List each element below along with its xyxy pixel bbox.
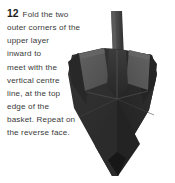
instruction-line-6: vertical centre (7, 74, 87, 87)
instruction-line-9: basket. Repeat on (7, 113, 87, 126)
instruction-line-5: meet with the (7, 61, 87, 74)
instruction-text-block: 12Fold the two outer corners of the uppe… (7, 7, 87, 140)
instruction-line-3: upper layer (7, 34, 87, 47)
instruction-line-2: outer corners of the (7, 21, 87, 34)
instruction-line-1: 12Fold the two (7, 7, 87, 21)
origami-instruction-page: 12Fold the two outer corners of the uppe… (0, 0, 175, 183)
instruction-line-10: the reverse face. (7, 126, 87, 139)
instruction-line-7: line, at the top (7, 87, 87, 100)
instruction-line-8: edge of the (7, 100, 87, 113)
instruction-line-4: inward to (7, 47, 87, 60)
step-number: 12 (7, 8, 19, 19)
instruction-line-1-text: Fold the two (23, 10, 69, 19)
